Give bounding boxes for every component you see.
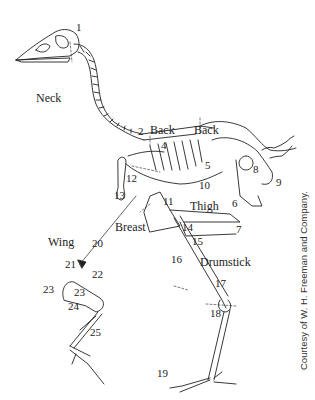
label-6: 6 bbox=[232, 198, 238, 209]
label-12: 12 bbox=[126, 173, 137, 184]
label-10: 10 bbox=[199, 180, 210, 191]
image-credit: Courtesy of W. H. Freeman and Company. bbox=[298, 191, 309, 370]
label-back-1: Back bbox=[150, 124, 175, 136]
label-21: 21 bbox=[65, 259, 76, 270]
label-25: 25 bbox=[90, 327, 101, 338]
label-8: 8 bbox=[253, 164, 259, 175]
label-7: 7 bbox=[236, 224, 242, 235]
label-wing: Wing bbox=[48, 236, 74, 248]
label-20: 20 bbox=[92, 238, 103, 249]
label-24: 24 bbox=[68, 301, 79, 312]
label-16: 16 bbox=[171, 254, 182, 265]
skeleton-diagram: Neck Back Back Wing Breast Thigh Drumsti… bbox=[0, 0, 315, 400]
skeleton-drawing bbox=[0, 0, 315, 400]
skull bbox=[16, 30, 79, 63]
label-11: 11 bbox=[163, 196, 174, 207]
label-17: 17 bbox=[215, 278, 226, 289]
label-drumstick: Drumstick bbox=[200, 256, 251, 268]
label-breast: Breast bbox=[115, 221, 146, 233]
label-neck: Neck bbox=[36, 92, 61, 104]
label-2: 2 bbox=[138, 126, 144, 137]
label-thigh: Thigh bbox=[190, 200, 219, 212]
label-back-2: Back bbox=[194, 124, 219, 136]
label-14: 14 bbox=[182, 222, 193, 233]
label-15: 15 bbox=[192, 236, 203, 247]
label-5: 5 bbox=[205, 160, 211, 171]
label-4: 4 bbox=[161, 140, 167, 151]
label-22: 22 bbox=[92, 269, 103, 280]
label-18: 18 bbox=[210, 308, 221, 319]
label-23a: 23 bbox=[43, 284, 54, 295]
neck-vertebrae bbox=[74, 44, 144, 140]
label-13: 13 bbox=[114, 190, 125, 201]
label-1: 1 bbox=[76, 22, 82, 33]
label-23b: 23 bbox=[74, 287, 85, 298]
label-19: 19 bbox=[157, 368, 168, 379]
label-9: 9 bbox=[276, 177, 282, 188]
leg-bones bbox=[170, 216, 236, 392]
